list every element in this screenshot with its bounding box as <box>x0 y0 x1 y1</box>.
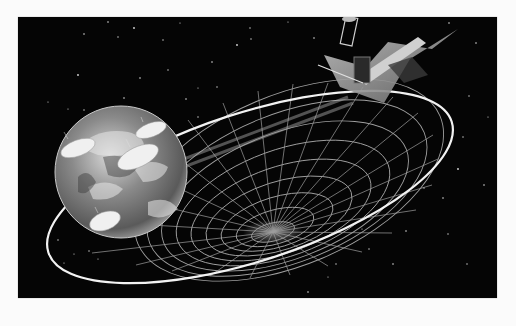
satellite <box>318 17 458 103</box>
earth-globe <box>55 106 187 238</box>
space-illustration: Illustration of a satellite in orbit bea… <box>18 17 497 298</box>
signal-beams <box>168 97 353 173</box>
